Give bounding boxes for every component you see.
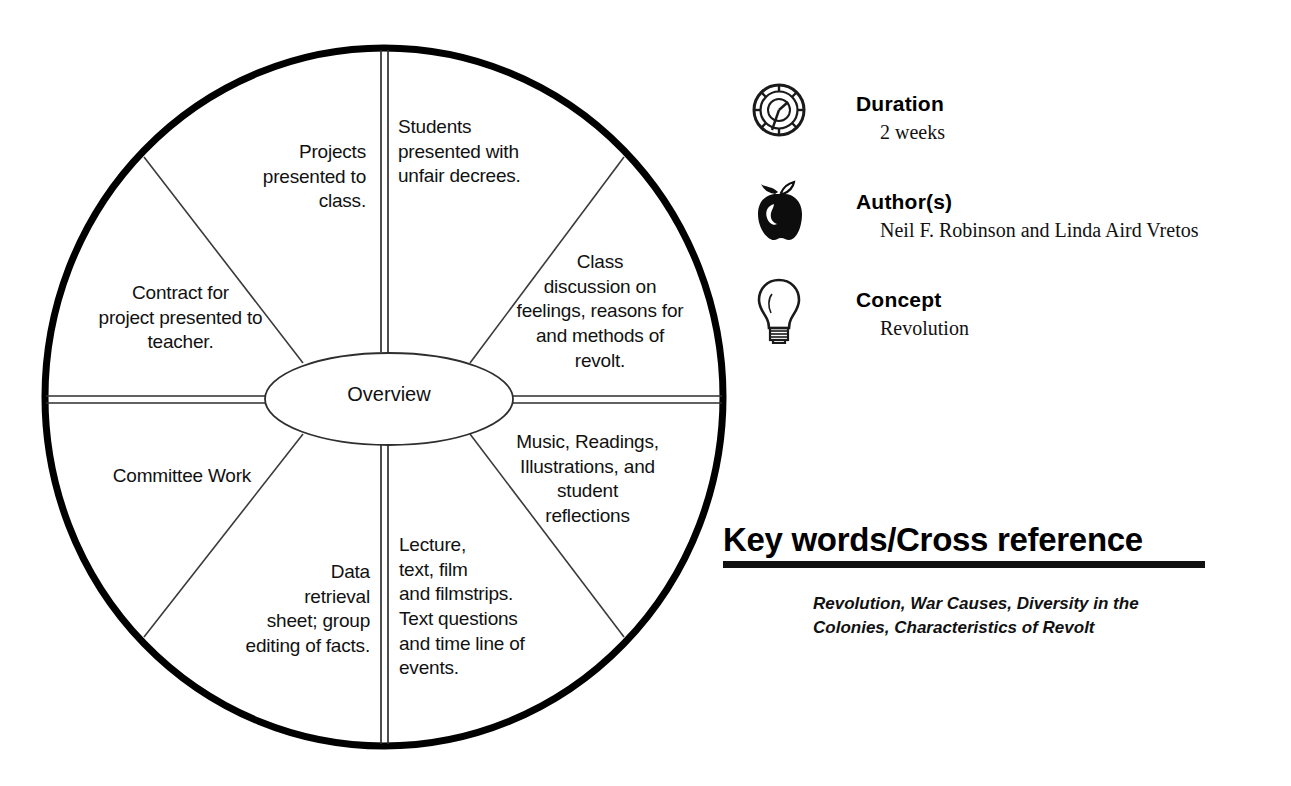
info-panel: Duration 2 weeks Author(s) Neil F. Robin… — [748, 78, 1278, 372]
stopwatch-icon — [748, 78, 810, 150]
segment-label-lecture-text-film: Lecture, text, film and filmstrips. Text… — [399, 533, 589, 681]
info-row-concept: Concept Revolution — [748, 274, 1278, 372]
segment-label-students-unfair-decrees: Students presented with unfair decrees. — [398, 115, 573, 189]
segment-label-committee-work: Committee Work — [72, 464, 292, 489]
apple-icon — [748, 176, 810, 248]
info-heading-duration: Duration — [856, 92, 1278, 116]
info-row-authors: Author(s) Neil F. Robinson and Linda Air… — [748, 176, 1278, 274]
segment-label-data-retrieval: Data retrieval sheet; group editing of f… — [190, 560, 370, 659]
segment-label-music-readings: Music, Readings, Illustrations, and stud… — [500, 430, 675, 529]
info-heading-authors: Author(s) — [856, 190, 1278, 214]
info-value-duration: 2 weeks — [856, 121, 1278, 144]
info-row-duration: Duration 2 weeks — [748, 78, 1278, 176]
info-heading-concept: Concept — [856, 288, 1278, 312]
keywords-block: Key words/Cross reference Revolution, Wa… — [723, 523, 1263, 641]
segment-label-contract-for-project: Contract for project presented to teache… — [63, 281, 298, 355]
info-value-authors: Neil F. Robinson and Linda Aird Vretos — [856, 219, 1278, 242]
overview-wheel-diagram: Overview Students presented with unfair … — [0, 0, 760, 786]
lightbulb-icon — [748, 274, 810, 346]
segment-label-class-discussion: Class discussion on feelings, reasons fo… — [505, 250, 695, 373]
keywords-underline-rule — [723, 561, 1205, 568]
center-label: Overview — [265, 383, 513, 406]
info-value-concept: Revolution — [856, 317, 1278, 340]
keywords-list: Revolution, War Causes, Diversity in the… — [813, 592, 1183, 641]
segment-label-projects-presented: Projects presented to class. — [198, 140, 366, 214]
keywords-title: Key words/Cross reference — [723, 523, 1263, 558]
